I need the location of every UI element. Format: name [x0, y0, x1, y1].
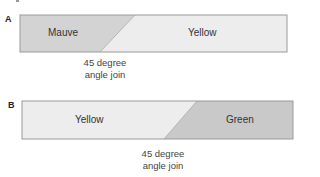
annotation-line2: angle join [138, 160, 188, 172]
annotation-b: 45 degree angle join [138, 148, 188, 172]
annotation-line1: 45 degree [138, 148, 188, 160]
yellow-label: Yellow [75, 114, 104, 125]
green-label: Green [226, 114, 254, 125]
